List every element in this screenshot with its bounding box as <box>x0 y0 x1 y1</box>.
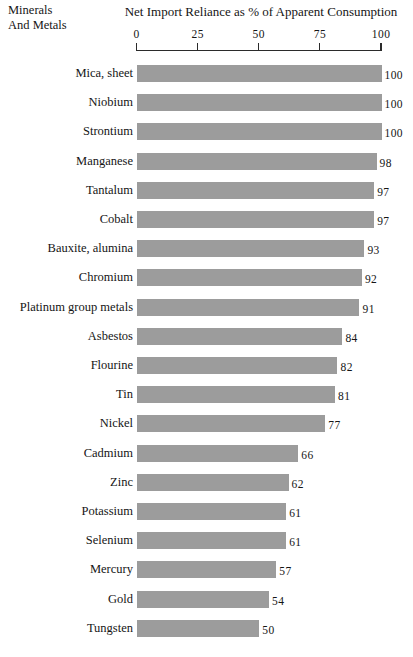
bar <box>137 328 342 345</box>
x-axis-tick-label: 0 <box>133 28 139 41</box>
bar <box>137 591 269 608</box>
category-label: Niobium <box>0 94 133 110</box>
bar-value-label: 97 <box>377 214 389 228</box>
x-axis-tick-label: 100 <box>372 28 391 41</box>
bar-value-label: 82 <box>340 360 352 374</box>
category-label: Cadmium <box>0 445 133 461</box>
x-axis-tick-label: 25 <box>191 28 204 41</box>
category-label: Tantalum <box>0 182 133 198</box>
bar-value-label: 84 <box>345 331 357 345</box>
chart-row: Niobium100 <box>0 90 413 119</box>
x-axis-tick-mark <box>136 43 137 51</box>
chart-row: Strontium100 <box>0 119 413 148</box>
x-axis-tick-label: 50 <box>253 28 266 41</box>
chart-title: Net Import Reliance as % of Apparent Con… <box>113 4 409 20</box>
category-label: Bauxite, alumina <box>0 240 133 256</box>
bar <box>137 386 335 403</box>
chart-row: Asbestos84 <box>0 324 413 353</box>
chart-row: Cadmium66 <box>0 441 413 470</box>
x-axis-tick-mark <box>197 43 198 51</box>
bar-value-label: 50 <box>262 623 274 637</box>
chart-row: Flourine82 <box>0 353 413 382</box>
category-label: Tungsten <box>0 620 133 636</box>
bar <box>137 94 382 111</box>
chart-row: Manganese98 <box>0 149 413 178</box>
bar <box>137 532 286 549</box>
category-label: Selenium <box>0 532 133 548</box>
bar-value-label: 61 <box>289 535 301 549</box>
category-label: Mercury <box>0 561 133 577</box>
corner-label-line-1: Minerals <box>8 3 118 18</box>
bar <box>137 65 382 82</box>
bar-value-label: 77 <box>328 418 340 432</box>
bar-value-label: 91 <box>362 302 374 316</box>
bar-value-label: 97 <box>377 185 389 199</box>
chart-row: Tantalum97 <box>0 178 413 207</box>
bar <box>137 153 377 170</box>
x-axis-tick-mark <box>319 43 320 51</box>
category-label: Nickel <box>0 415 133 431</box>
chart-row: Bauxite, alumina93 <box>0 236 413 265</box>
chart-row: Cobalt97 <box>0 207 413 236</box>
bar <box>137 620 259 637</box>
x-axis-tick-mark <box>258 43 259 51</box>
bar-chart: Minerals And Metals Net Import Reliance … <box>0 0 413 657</box>
category-label: Cobalt <box>0 211 133 227</box>
bar <box>137 561 276 578</box>
bar-value-label: 92 <box>365 272 377 286</box>
chart-row: Platinum group metals91 <box>0 295 413 324</box>
bar-value-label: 100 <box>385 97 403 111</box>
bar <box>137 445 298 462</box>
x-axis-tick-label: 75 <box>314 28 327 41</box>
category-label: Tin <box>0 386 133 402</box>
bar <box>137 211 374 228</box>
chart-row: Zinc62 <box>0 470 413 499</box>
x-axis: 0255075100 <box>0 28 413 61</box>
chart-row: Nickel77 <box>0 411 413 440</box>
bar-value-label: 62 <box>292 477 304 491</box>
chart-row: Chromium92 <box>0 265 413 294</box>
bar <box>137 474 289 491</box>
bar-value-label: 98 <box>380 156 392 170</box>
bar <box>137 240 364 257</box>
chart-row: Mica, sheet100 <box>0 61 413 90</box>
category-label: Strontium <box>0 123 133 139</box>
bar <box>137 299 359 316</box>
bar <box>137 357 337 374</box>
chart-row: Selenium61 <box>0 528 413 557</box>
category-label: Gold <box>0 591 133 607</box>
bar <box>137 269 362 286</box>
chart-row: Tin81 <box>0 382 413 411</box>
plot-area: Mica, sheet100Niobium100Strontium100Mang… <box>0 61 413 657</box>
chart-row: Gold54 <box>0 587 413 616</box>
chart-row: Mercury57 <box>0 557 413 586</box>
chart-row: Potassium61 <box>0 499 413 528</box>
category-label: Asbestos <box>0 328 133 344</box>
bar-value-label: 100 <box>385 68 403 82</box>
category-label: Manganese <box>0 153 133 169</box>
x-axis-tick-mark <box>380 43 381 51</box>
chart-row: Tungsten50 <box>0 616 413 645</box>
bar-value-label: 61 <box>289 506 301 520</box>
bar-value-label: 81 <box>338 389 350 403</box>
bar <box>137 123 382 140</box>
category-label: Flourine <box>0 357 133 373</box>
category-label: Zinc <box>0 474 133 490</box>
category-label: Platinum group metals <box>0 299 133 315</box>
bar <box>137 182 374 199</box>
category-label: Chromium <box>0 269 133 285</box>
bar-value-label: 54 <box>272 594 284 608</box>
bar <box>137 503 286 520</box>
bar-value-label: 93 <box>367 243 379 257</box>
bar-value-label: 57 <box>279 564 291 578</box>
category-label: Potassium <box>0 503 133 519</box>
bar-value-label: 66 <box>301 448 313 462</box>
bar <box>137 415 325 432</box>
bar-value-label: 100 <box>385 126 403 140</box>
category-label: Mica, sheet <box>0 65 133 81</box>
